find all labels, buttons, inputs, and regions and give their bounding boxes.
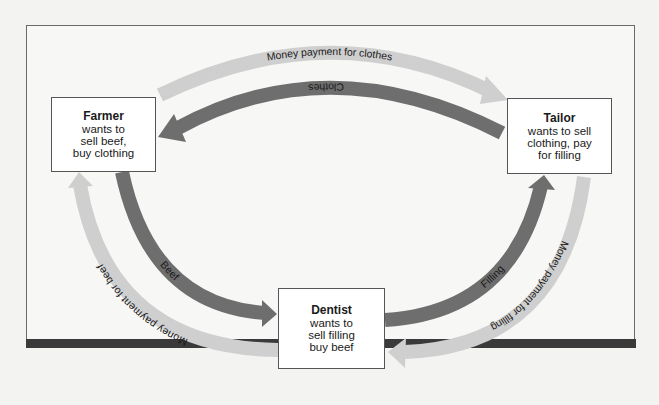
arrow-clothes: Clothes [158, 81, 502, 142]
arrowhead-icon [262, 300, 277, 327]
node-title: Farmer [83, 110, 124, 123]
node-title: Dentist [311, 304, 352, 317]
arrow-money-for-clothes: Money payment for clothes [160, 45, 508, 104]
node-line: for filling [538, 149, 581, 161]
label-clothes: Clothes [308, 81, 344, 94]
node-line: wants to [310, 317, 353, 329]
arrowhead-icon [68, 172, 93, 188]
node-farmer: Farmer wants to sell beef, buy clothing [51, 97, 156, 172]
node-line: sell beef, [80, 135, 126, 147]
arrow-money-for-beef: Money payment for beef [68, 172, 278, 350]
node-tailor: Tailor wants to sell clothing, pay for f… [507, 98, 612, 174]
node-title: Tailor [544, 112, 576, 125]
arrow-money-for-filling: Money payment for filling [388, 177, 584, 368]
node-line: sell filling [308, 329, 355, 341]
arrowhead-icon [528, 175, 555, 190]
node-line: wants to sell [528, 125, 591, 137]
node-line: clothing, pay [527, 137, 592, 149]
label-money-for-filling: Money payment for filling [489, 239, 572, 334]
arrowhead-icon [388, 338, 406, 368]
svg-text:Money payment for filling: Money payment for filling [489, 239, 572, 334]
node-line: wants to [82, 123, 125, 135]
node-line: buy clothing [73, 147, 134, 159]
arrowhead-icon [480, 76, 508, 104]
node-line: buy beef [309, 341, 353, 353]
node-dentist: Dentist wants to sell filling buy beef [278, 288, 385, 369]
svg-text:Clothes: Clothes [308, 81, 344, 94]
